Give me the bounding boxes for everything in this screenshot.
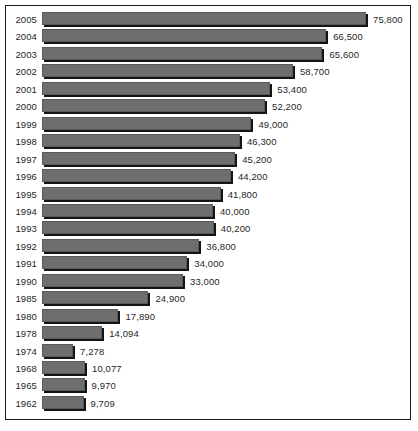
bar	[42, 187, 223, 202]
bar-fill	[42, 361, 85, 374]
bar-category-label: 2001	[6, 83, 37, 96]
bar-value-label: 40,000	[220, 205, 250, 218]
bar-fill	[42, 152, 235, 165]
bar-value-label: 34,000	[194, 257, 224, 270]
bar	[42, 378, 87, 393]
bar	[42, 47, 324, 62]
bar-value-label: 24,900	[155, 292, 185, 305]
bar-value-label: 17,890	[125, 310, 155, 323]
bar-fill	[42, 47, 322, 60]
bar-value-label: 36,800	[206, 240, 236, 253]
bar-category-label: 1974	[6, 345, 37, 358]
bar	[42, 344, 75, 359]
bar-value-label: 58,700	[300, 65, 330, 78]
bar-fill	[42, 29, 326, 42]
bar	[42, 239, 201, 254]
bar-category-label: 1968	[6, 362, 37, 375]
bar-fill	[42, 117, 251, 130]
bar	[42, 99, 267, 114]
bar-value-label: 45,200	[242, 153, 272, 166]
bar	[42, 169, 233, 184]
bar-category-label: 1962	[6, 397, 37, 410]
bar	[42, 361, 87, 376]
bar-value-label: 9,709	[91, 397, 115, 410]
bar-fill	[42, 344, 73, 357]
bar	[42, 12, 368, 27]
bar-category-label: 1994	[6, 205, 37, 218]
bar	[42, 309, 120, 324]
bar-fill	[42, 204, 213, 217]
bar-fill	[42, 221, 214, 234]
bar-value-label: 66,500	[333, 30, 363, 43]
bar-value-label: 75,800	[373, 13, 403, 26]
bar-fill	[42, 134, 240, 147]
bar-category-label: 1997	[6, 153, 37, 166]
bar	[42, 64, 295, 79]
bar-value-label: 33,000	[190, 275, 220, 288]
bar-fill	[42, 291, 148, 304]
bar-category-label: 1978	[6, 327, 37, 340]
chart-frame: 200575,800200466,500200365,600200258,700…	[5, 5, 411, 420]
bar-category-label: 1998	[6, 135, 37, 148]
bar-category-label: 1999	[6, 118, 37, 131]
bar	[42, 82, 272, 97]
bar-value-label: 52,200	[272, 100, 302, 113]
bar-row: 19629,709	[6, 394, 410, 414]
bar-value-label: 10,077	[92, 362, 122, 375]
bar-value-label: 46,300	[247, 135, 277, 148]
bar-fill	[42, 82, 270, 95]
bar	[42, 204, 215, 219]
bar-category-label: 1992	[6, 240, 37, 253]
bar-fill	[42, 309, 118, 322]
bar-fill	[42, 187, 221, 200]
bar-value-label: 7,278	[80, 345, 104, 358]
bar-fill	[42, 326, 102, 339]
bar-category-label: 1990	[6, 275, 37, 288]
bar-category-label: 2002	[6, 65, 37, 78]
bar	[42, 117, 253, 132]
bar-category-label: 1995	[6, 188, 37, 201]
bar-value-label: 44,200	[238, 170, 268, 183]
bar-value-label: 65,600	[329, 48, 359, 61]
bar-chart-plot-area: 200575,800200466,500200365,600200258,700…	[6, 6, 410, 419]
bar	[42, 152, 237, 167]
bar-fill	[42, 64, 293, 77]
bar-fill	[42, 378, 85, 391]
bar-fill	[42, 274, 183, 287]
bar	[42, 221, 216, 236]
bar-category-label: 1991	[6, 257, 37, 270]
bar	[42, 274, 185, 289]
bar-category-label: 2004	[6, 30, 37, 43]
bar-value-label: 40,200	[221, 222, 251, 235]
bar-value-label: 41,800	[228, 188, 258, 201]
bar-fill	[42, 239, 199, 252]
bar	[42, 256, 189, 271]
bar-value-label: 53,400	[277, 83, 307, 96]
bar-category-label: 1985	[6, 292, 37, 305]
bar-value-label: 14,094	[109, 327, 139, 340]
bar-category-label: 1965	[6, 379, 37, 392]
bar	[42, 326, 104, 341]
bar-category-label: 1993	[6, 222, 37, 235]
bar-category-label: 2000	[6, 100, 37, 113]
bar-category-label: 2003	[6, 48, 37, 61]
bar-value-label: 9,970	[92, 379, 116, 392]
bar-fill	[42, 169, 231, 182]
bar	[42, 29, 328, 44]
bar-value-label: 49,000	[258, 118, 288, 131]
bar-fill	[42, 12, 366, 25]
bar	[42, 134, 242, 149]
bar-category-label: 2005	[6, 13, 37, 26]
bar-fill	[42, 396, 84, 409]
bar-category-label: 1996	[6, 170, 37, 183]
bar	[42, 291, 150, 306]
bar-category-label: 1980	[6, 310, 37, 323]
bar	[42, 396, 86, 411]
bar-fill	[42, 256, 187, 269]
bar-fill	[42, 99, 265, 112]
